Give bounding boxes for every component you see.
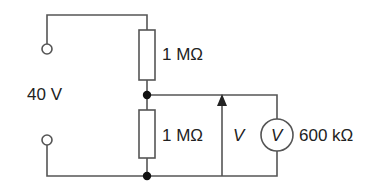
bottom-wire: [47, 145, 277, 176]
lower-resistor: [139, 110, 155, 158]
supply-voltage-label: 40 V: [27, 86, 62, 103]
junction-node-bottom: [143, 172, 151, 180]
top-terminal: [42, 44, 52, 54]
mid-wire: [147, 95, 277, 119]
voltmeter-resistance-label: 600 kΩ: [299, 127, 353, 144]
junction-node-mid: [143, 91, 151, 99]
voltmeter-symbol: V: [271, 127, 282, 144]
circuit-diagram: 40 V 1 MΩ 1 MΩ V V 600 kΩ: [0, 0, 379, 188]
upper-resistor: [139, 30, 155, 80]
bottom-terminal: [42, 135, 52, 145]
upper-resistor-label: 1 MΩ: [162, 46, 203, 63]
lower-resistor-label: 1 MΩ: [162, 127, 203, 144]
top-wire: [47, 15, 147, 45]
voltage-arrow-label: V: [233, 127, 244, 144]
